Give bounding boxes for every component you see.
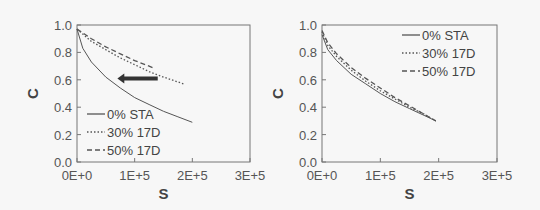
chart-panel-left: 0.00.20.40.60.81.00E+01E+52E+53E+5SC0% S…	[24, 18, 265, 202]
chart-figure: 0.00.20.40.60.81.00E+01E+52E+53E+5SC0% S…	[0, 0, 540, 210]
y-tick-label: 1.0	[54, 18, 72, 33]
y-tick-label: 0.6	[299, 73, 317, 88]
series-line	[77, 29, 155, 69]
series-line	[77, 29, 184, 84]
x-tick-label: 1E+5	[119, 168, 150, 183]
series-line	[322, 31, 436, 121]
x-tick-label: 2E+5	[177, 168, 208, 183]
legend-entry: 50% 17D	[107, 143, 160, 158]
chart-panel-right: 0.00.20.40.60.81.00E+01E+52E+53E+5SC0% S…	[269, 18, 512, 202]
plot-frame	[77, 25, 250, 162]
x-tick-label: 0E+0	[307, 168, 338, 183]
legend-entry: 0% STA	[422, 28, 469, 43]
y-axis-label: C	[24, 88, 41, 99]
y-tick-label: 0.8	[299, 45, 317, 60]
legend-entry: 0% STA	[107, 107, 154, 122]
y-tick-label: 1.0	[299, 18, 317, 33]
y-tick-label: 0.2	[299, 128, 317, 143]
y-tick-label: 0.4	[54, 100, 72, 115]
y-tick-label: 0.4	[299, 100, 317, 115]
y-tick-label: 0.6	[54, 73, 72, 88]
x-tick-label: 3E+5	[235, 168, 266, 183]
legend-entry: 30% 17D	[422, 46, 475, 61]
legend-entry: 30% 17D	[107, 125, 160, 140]
x-axis-label: S	[404, 185, 414, 202]
y-tick-label: 0.2	[54, 128, 72, 143]
series-line	[322, 32, 436, 121]
y-axis-label: C	[269, 88, 286, 99]
legend-entry: 50% 17D	[422, 64, 475, 79]
y-tick-label: 0.8	[54, 45, 72, 60]
x-tick-label: 1E+5	[365, 168, 396, 183]
series-line	[322, 35, 436, 121]
arrow-head-icon	[117, 73, 124, 83]
x-tick-label: 2E+5	[423, 168, 454, 183]
x-tick-label: 0E+0	[62, 168, 93, 183]
x-axis-label: S	[158, 185, 168, 202]
x-tick-label: 3E+5	[482, 168, 513, 183]
